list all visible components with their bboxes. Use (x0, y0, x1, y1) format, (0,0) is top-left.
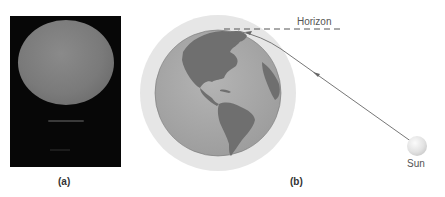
sun-label: Sun (407, 158, 425, 169)
sun (407, 136, 427, 156)
horizon-label: Horizon (297, 16, 331, 27)
refraction-diagram (0, 0, 445, 197)
panel-b-label: (b) (290, 176, 303, 187)
